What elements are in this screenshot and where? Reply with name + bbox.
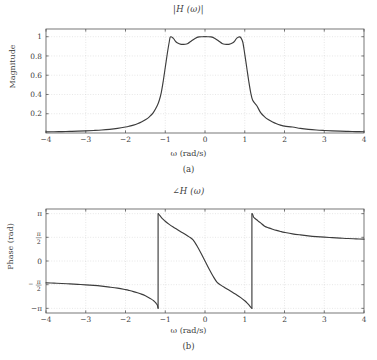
- svg-text:1: 1: [242, 135, 247, 144]
- x-axis-label-phase: ω (rad/s): [0, 326, 377, 335]
- svg-text:π: π: [37, 278, 41, 285]
- svg-text:−3: −3: [80, 135, 91, 144]
- svg-text:−π: −π: [31, 304, 42, 313]
- magnitude-plot-canvas: −4−3−2−1012340.20.40.60.81: [0, 15, 377, 165]
- x-axis-label-magnitude: ω (rad/s): [0, 149, 377, 158]
- svg-text:0.6: 0.6: [30, 71, 42, 80]
- grid-lines: [46, 29, 364, 133]
- axis-ticks: −4−3−2−101234ππ20−π2−π: [28, 209, 366, 324]
- panel-caption-b: (b): [0, 341, 377, 351]
- phase-plot-canvas: −4−3−2−101234ππ20−π2−π: [0, 197, 377, 347]
- svg-text:2: 2: [282, 135, 287, 144]
- svg-text:3: 3: [322, 135, 327, 144]
- svg-text:1: 1: [37, 32, 42, 41]
- svg-text:4: 4: [362, 135, 367, 144]
- svg-text:−2: −2: [120, 315, 131, 324]
- plot-title-magnitude: |H (ω)|: [0, 4, 377, 14]
- svg-text:−: −: [28, 280, 33, 287]
- svg-text:−1: −1: [160, 315, 171, 324]
- figure-panel-a: |H (ω)| Magnitude −4−3−2−1012340.20.40.6…: [0, 0, 377, 180]
- svg-text:−3: −3: [80, 315, 91, 324]
- svg-text:−4: −4: [41, 135, 52, 144]
- svg-text:−4: −4: [41, 315, 52, 324]
- svg-text:0.8: 0.8: [30, 52, 42, 61]
- svg-text:1: 1: [242, 315, 247, 324]
- svg-text:0: 0: [203, 135, 208, 144]
- svg-text:0.2: 0.2: [30, 109, 42, 118]
- svg-text:4: 4: [362, 315, 367, 324]
- svg-text:π: π: [37, 230, 41, 237]
- svg-text:2: 2: [37, 238, 41, 245]
- panel-caption-a: (a): [0, 164, 377, 174]
- svg-text:π: π: [37, 209, 42, 218]
- svg-text:3: 3: [322, 315, 327, 324]
- svg-text:0: 0: [37, 257, 42, 266]
- svg-text:−1: −1: [160, 135, 171, 144]
- svg-text:0.4: 0.4: [30, 90, 42, 99]
- plot-title-phase: ∠H (ω): [0, 186, 377, 196]
- svg-text:−2: −2: [120, 135, 131, 144]
- axis-ticks: −4−3−2−1012340.20.40.60.81: [30, 29, 366, 144]
- svg-text:2: 2: [37, 285, 41, 292]
- svg-text:0: 0: [203, 315, 208, 324]
- figure-panel-b: ∠H (ω) Phase (rad) −4−3−2−101234ππ20−π2−…: [0, 180, 377, 360]
- svg-text:2: 2: [282, 315, 287, 324]
